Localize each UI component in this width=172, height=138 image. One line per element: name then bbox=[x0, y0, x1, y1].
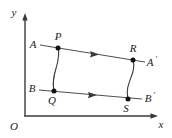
endpoint-label-B-prime-mark: ′ bbox=[153, 91, 155, 100]
point-label-R: R bbox=[129, 42, 137, 54]
endpoint-label-A-prime-mark: ′ bbox=[155, 55, 157, 64]
y-axis-arrowhead bbox=[22, 13, 27, 21]
endpoint-label-B: B bbox=[29, 82, 36, 94]
endpoint-label-A: A bbox=[29, 38, 37, 50]
arrow-marker-upper-line bbox=[90, 51, 99, 58]
endpoint-label-A-prime: A ′ bbox=[146, 55, 157, 68]
point-dot-P bbox=[56, 46, 61, 51]
endpoint-label-B-prime: B ′ bbox=[145, 91, 155, 104]
point-label-P: P bbox=[54, 30, 62, 42]
x-axis-arrowhead bbox=[151, 113, 159, 118]
arrow-marker-lower-line bbox=[88, 92, 97, 98]
geometry-figure: y x O P Q R S A bbox=[0, 0, 172, 138]
curve-RS bbox=[127, 60, 134, 99]
point-label-S: S bbox=[123, 102, 129, 114]
point-dot-S bbox=[126, 97, 131, 102]
point-dot-Q bbox=[52, 89, 57, 94]
point-label-Q: Q bbox=[48, 94, 56, 106]
point-dot-R bbox=[131, 58, 136, 63]
endpoint-label-B-prime-letter: B bbox=[145, 92, 152, 104]
curve-PQ bbox=[53, 48, 59, 91]
figure-canvas: y x O P Q R S A bbox=[0, 0, 172, 138]
endpoint-label-A-prime-letter: A bbox=[146, 56, 154, 68]
x-axis-label: x bbox=[158, 118, 164, 130]
axes-group bbox=[22, 13, 158, 119]
y-axis-label: y bbox=[11, 6, 17, 18]
origin-label: O bbox=[10, 120, 18, 132]
